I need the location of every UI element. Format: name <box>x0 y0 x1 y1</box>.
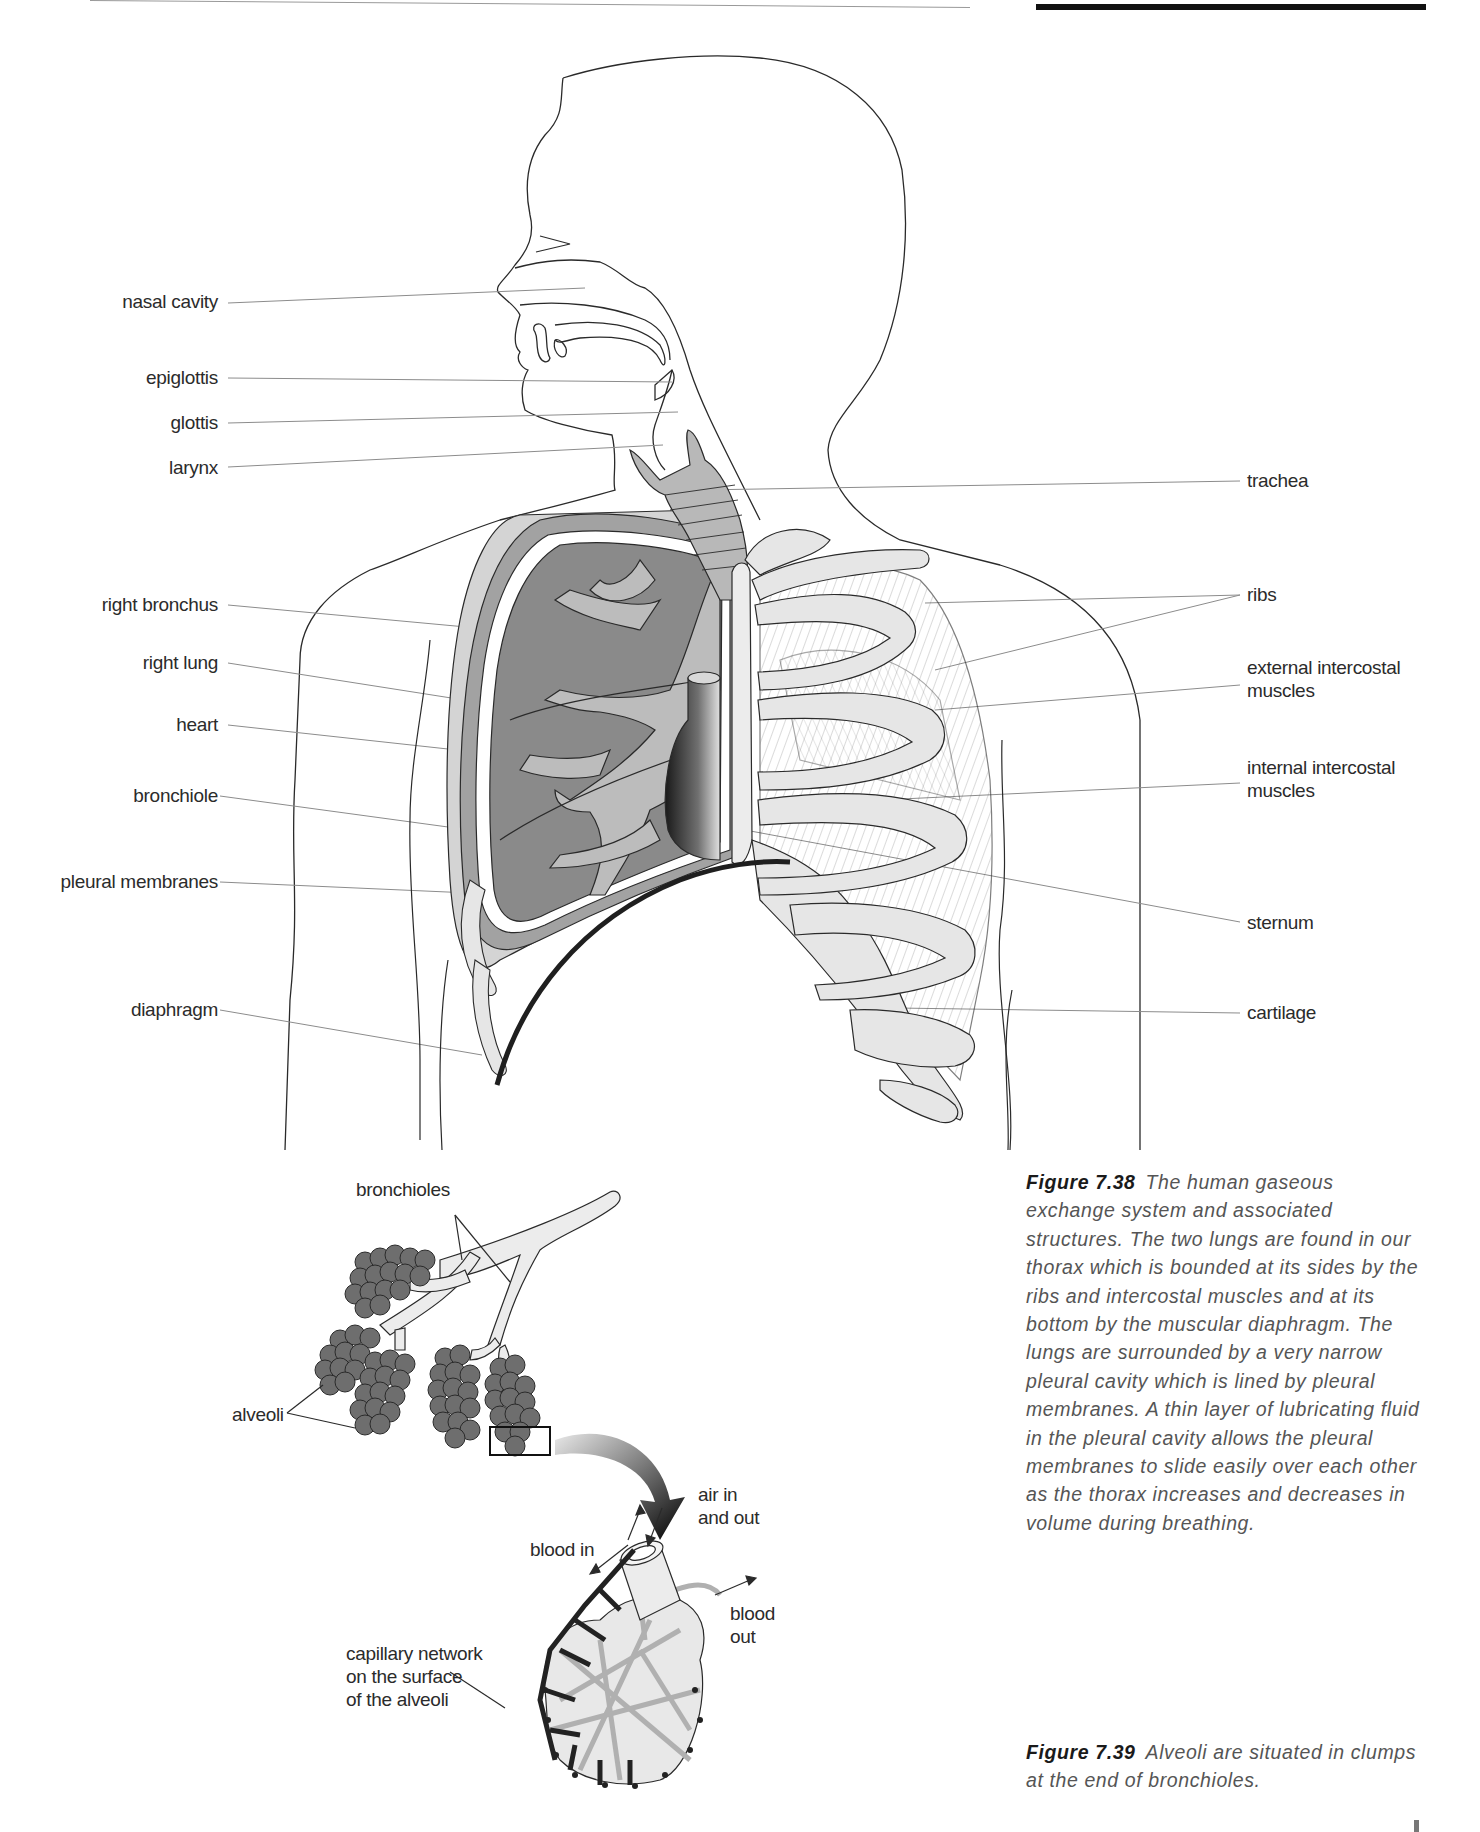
label-alveoli: alveoli <box>232 1403 284 1426</box>
label-capillary-line2: on the surface <box>346 1665 482 1688</box>
page-edge-mark <box>1414 1820 1419 1832</box>
alveolus-detail <box>540 1536 720 1789</box>
label-external-intercostal: external intercostal muscles <box>1247 656 1400 702</box>
label-internal-intercostal: internal intercostal muscles <box>1247 756 1395 802</box>
label-glottis: glottis <box>170 411 218 434</box>
textbook-page: nasal cavity epiglottis glottis larynx r… <box>0 0 1480 1832</box>
label-larynx: larynx <box>169 456 218 479</box>
caption-figure-7-39: Figure 7.39Alveoli are situated in clump… <box>1026 1738 1426 1795</box>
label-heart: heart <box>176 713 218 736</box>
label-ribs: ribs <box>1247 583 1276 606</box>
label-blood-in: blood in <box>530 1538 594 1561</box>
label-air-in-out: air in and out <box>698 1483 759 1529</box>
label-right-bronchus: right bronchus <box>102 593 218 616</box>
label-blood-out: blood out <box>730 1602 775 1648</box>
label-external-intercostal-line2: muscles <box>1247 679 1400 702</box>
label-and-out: and out <box>698 1506 759 1529</box>
label-capillary-line1: capillary network <box>346 1642 482 1665</box>
label-trachea: trachea <box>1247 469 1308 492</box>
label-cartilage: cartilage <box>1247 1001 1316 1024</box>
caption-figure-7-38: Figure 7.38The human gaseous exchange sy… <box>1026 1168 1426 1537</box>
label-air-in: air in <box>698 1483 759 1506</box>
label-blood: blood <box>730 1602 775 1625</box>
label-diaphragm: diaphragm <box>131 998 218 1021</box>
label-bronchioles: bronchioles <box>356 1178 450 1201</box>
label-internal-intercostal-line2: muscles <box>1247 779 1395 802</box>
caption-figure-7-38-text: The human gaseous exchange system and as… <box>1026 1171 1419 1534</box>
caption-figure-7-39-number: Figure 7.39 <box>1026 1741 1136 1763</box>
label-bronchiole: bronchiole <box>133 784 218 807</box>
label-sternum: sternum <box>1247 911 1314 934</box>
rib-cage <box>745 530 992 1123</box>
label-out: out <box>730 1625 775 1648</box>
caption-figure-7-38-number: Figure 7.38 <box>1026 1171 1136 1193</box>
label-external-intercostal-line1: external intercostal <box>1247 656 1400 679</box>
curved-arrow-icon <box>555 1434 685 1540</box>
label-nasal-cavity: nasal cavity <box>122 290 218 313</box>
label-epiglottis: epiglottis <box>146 366 218 389</box>
label-pleural-membranes: pleural membranes <box>60 870 218 893</box>
label-capillary-network: capillary network on the surface of the … <box>346 1642 482 1711</box>
sternum <box>732 563 752 865</box>
label-capillary-line3: of the alveoli <box>346 1688 482 1711</box>
label-right-lung: right lung <box>143 651 218 674</box>
label-internal-intercostal-line1: internal intercostal <box>1247 756 1395 779</box>
